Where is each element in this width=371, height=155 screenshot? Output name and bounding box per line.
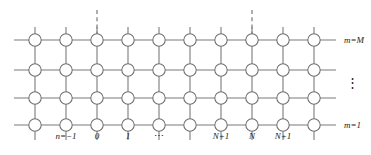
grid-node-r1-c0 [29, 64, 41, 76]
grid-node-r1-c6 [215, 64, 227, 76]
grid-node-r1-c9 [308, 64, 320, 76]
grid-node-r1-c4 [153, 64, 165, 76]
grid-node-r1-c3 [122, 64, 134, 76]
grid-node-r3-c1 [60, 119, 72, 131]
grid-node-r2-c9 [308, 92, 320, 104]
grid-node-r2-c2 [91, 92, 103, 104]
grid-lattice-figure: n=−101⋯N+1NN+1m=Mm=1⋮ [0, 0, 371, 155]
grid-node-r2-c6 [215, 92, 227, 104]
grid-node-r0-c6 [215, 34, 227, 46]
grid-node-r0-c5 [184, 34, 196, 46]
grid-node-r1-c2 [91, 64, 103, 76]
grid-node-r2-c8 [277, 92, 289, 104]
grid-node-r3-c3 [122, 119, 134, 131]
column-label-0: n=−1 [55, 132, 76, 141]
row-label-1: m=1 [344, 121, 361, 130]
grid-node-r1-c5 [184, 64, 196, 76]
grid-node-r3-c7 [246, 119, 258, 131]
grid-node-r0-c8 [277, 34, 289, 46]
grid-node-r0-c0 [29, 34, 41, 46]
grid-node-r0-c1 [60, 34, 72, 46]
row-label-0: m=M [344, 36, 364, 45]
grid-nodes [29, 34, 320, 131]
column-ellipsis: ⋯ [154, 131, 165, 141]
grid-node-r2-c4 [153, 92, 165, 104]
grid-node-r2-c5 [184, 92, 196, 104]
grid-node-r0-c3 [122, 34, 134, 46]
grid-node-r2-c0 [29, 92, 41, 104]
grid-node-r3-c6 [215, 119, 227, 131]
grid-node-r0-c9 [308, 34, 320, 46]
grid-node-r0-c2 [91, 34, 103, 46]
column-label-1: 0 [95, 132, 100, 141]
dashed-boundary-lines [97, 10, 252, 34]
column-label-4: N+1 [213, 132, 230, 141]
column-label-5: N [249, 132, 255, 141]
edge-line-stubs [35, 27, 314, 140]
vertical-gridlines [35, 40, 314, 125]
grid-node-r0-c4 [153, 34, 165, 46]
grid-node-r1-c8 [277, 64, 289, 76]
grid-node-r3-c0 [29, 119, 41, 131]
grid-node-r0-c7 [246, 34, 258, 46]
column-label-6: N+1 [275, 132, 292, 141]
grid-node-r2-c3 [122, 92, 134, 104]
grid-node-r3-c5 [184, 119, 196, 131]
grid-node-r3-c9 [308, 119, 320, 131]
column-label-2: 1 [126, 132, 131, 141]
horizontal-gridlines [14, 40, 336, 125]
grid-node-r1-c1 [60, 64, 72, 76]
row-vertical-ellipsis: ⋮ [346, 76, 359, 89]
grid-node-r2-c7 [246, 92, 258, 104]
grid-node-r1-c7 [246, 64, 258, 76]
grid-node-r2-c1 [60, 92, 72, 104]
grid-node-r3-c8 [277, 119, 289, 131]
grid-node-r3-c2 [91, 119, 103, 131]
